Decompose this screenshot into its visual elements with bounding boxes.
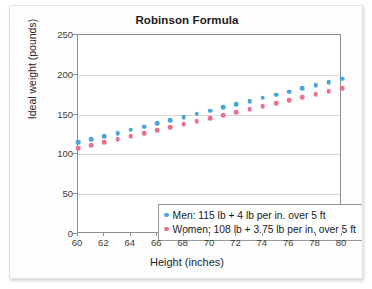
data-point-men [89, 137, 94, 142]
x-tick-mark [77, 233, 78, 236]
gridline [78, 154, 340, 155]
x-tick-mark [315, 233, 316, 236]
data-point-women [129, 134, 134, 139]
y-tick-label: 150 [43, 108, 73, 119]
legend-swatch-men-icon [164, 213, 169, 218]
x-tick-mark [183, 233, 184, 236]
data-point-women [261, 104, 266, 109]
y-tick-label: 50 [43, 188, 73, 199]
data-point-women [234, 110, 239, 115]
data-point-women [115, 137, 120, 142]
y-axis-label: Ideal weight (pounds) [26, 5, 38, 169]
data-point-men [274, 92, 279, 97]
x-tick-mark [156, 233, 157, 236]
data-point-women [195, 119, 200, 124]
x-tick-mark [235, 233, 236, 236]
data-point-women [313, 92, 318, 97]
legend-item-men: Men: 115 lb + 4 lb per in. over 5 ft [164, 208, 356, 222]
x-axis-label: Height (inches) [10, 256, 363, 268]
legend-swatch-women-icon [164, 227, 169, 232]
x-tick-mark [130, 233, 131, 236]
data-point-men [247, 99, 252, 104]
legend-label-men: Men: 115 lb + 4 lb per in. over 5 ft [173, 210, 326, 221]
data-point-men [181, 115, 186, 120]
data-point-women [300, 95, 305, 100]
x-tick-mark [288, 233, 289, 236]
data-point-men [168, 118, 173, 123]
data-point-women [76, 146, 81, 151]
data-point-men [208, 108, 213, 113]
data-point-women [274, 101, 279, 106]
data-point-women [102, 140, 107, 145]
data-point-men [195, 112, 200, 117]
plot-area: Men: 115 lb + 4 lb per in. over 5 ft Wom… [77, 34, 341, 233]
data-point-women [340, 86, 345, 91]
data-point-men [340, 76, 345, 81]
gridline [78, 75, 340, 76]
x-tick-mark [103, 233, 104, 236]
y-tick-label: 100 [43, 148, 73, 159]
data-point-women [247, 107, 252, 112]
data-point-men [115, 131, 120, 136]
data-point-women [208, 116, 213, 121]
figure-card: Robinson Formula Ideal weight (pounds) 0… [9, 5, 363, 279]
x-tick-mark [341, 233, 342, 236]
data-point-women [89, 143, 94, 148]
x-tick-mark [209, 233, 210, 236]
data-point-men [102, 134, 107, 139]
data-point-men [155, 121, 160, 126]
data-point-men [300, 86, 305, 91]
data-point-men [313, 83, 318, 88]
data-point-men [261, 96, 266, 101]
data-point-women [327, 89, 332, 94]
data-point-men [234, 102, 239, 107]
data-point-men [76, 140, 81, 145]
x-tick-mark [262, 233, 263, 236]
data-point-women [287, 98, 292, 103]
y-tick-label: 250 [43, 29, 73, 40]
data-point-women [221, 113, 226, 118]
gridline [78, 194, 340, 195]
legend-label-women: Women: 108 lb + 3.75 lb per in. over 5 f… [173, 224, 356, 235]
data-point-men [221, 105, 226, 110]
y-axis-ticks: 050100150200250 [40, 34, 73, 233]
x-tick-label: 80 [326, 237, 356, 248]
data-point-men [287, 89, 292, 94]
data-point-men [327, 80, 332, 85]
x-axis-ticks: 6062646668707274767880 [77, 234, 341, 256]
data-point-women [168, 125, 173, 130]
chart-title: Robinson Formula [10, 14, 363, 26]
data-point-women [181, 122, 186, 127]
data-point-men [142, 124, 147, 129]
y-tick-label: 200 [43, 68, 73, 79]
data-point-women [155, 128, 160, 133]
data-point-women [142, 131, 147, 136]
data-point-men [129, 127, 134, 132]
